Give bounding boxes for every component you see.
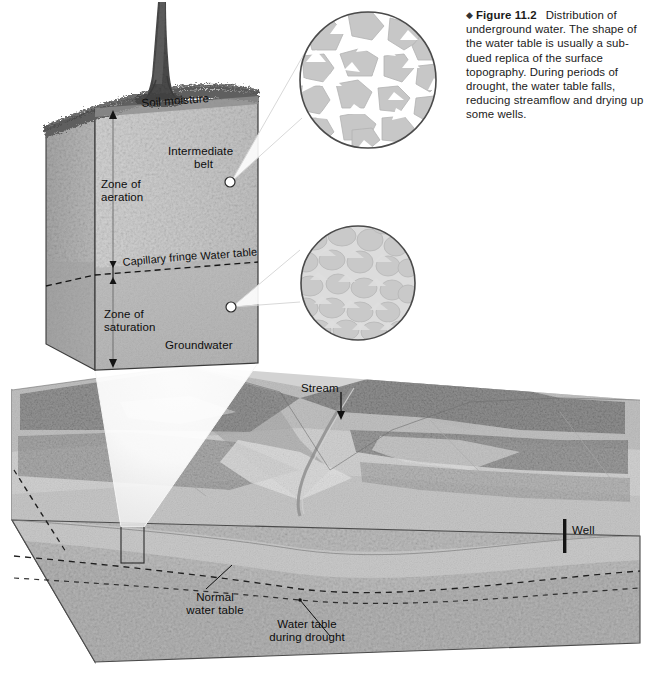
tree-trunk — [134, 2, 186, 107]
caption-bullet-icon: ◆ — [466, 10, 473, 20]
figure-caption-text: Distribution of underground water. The s… — [466, 9, 643, 120]
label-stream: Stream — [301, 382, 339, 395]
label-drought-water-table-line2: during drought — [248, 631, 366, 644]
aeration-sample-point — [225, 177, 235, 187]
well-shaft — [563, 519, 566, 553]
figure-caption: ◆Figure 11.2Distribution of underground … — [466, 8, 648, 122]
label-groundwater: Groundwater — [165, 339, 233, 352]
label-well: Well — [572, 524, 595, 537]
zone-of-aeration-magnifier — [298, 8, 444, 152]
label-zone-of-saturation-line2: saturation — [104, 321, 156, 334]
label-zone-of-aeration-line1: Zone of — [101, 178, 141, 191]
underground-water-block — [44, 2, 304, 370]
aeration-grains — [298, 8, 444, 152]
label-normal-water-table-line2: water table — [176, 604, 254, 617]
label-zone-of-aeration-line2: aeration — [101, 191, 143, 204]
label-drought-water-table-line1: Water table — [248, 618, 366, 631]
label-normal-water-table-line1: Normal — [176, 591, 254, 604]
saturation-sample-point — [226, 302, 236, 312]
saturation-grains — [294, 216, 418, 343]
figure-number: Figure 11.2 — [476, 9, 537, 21]
label-zone-of-saturation-line1: Zone of — [104, 308, 144, 321]
label-intermediate-belt-line2: belt — [194, 158, 213, 171]
drought-leader-dot — [298, 598, 302, 602]
figure-11-2: ◆Figure 11.2Distribution of underground … — [0, 0, 651, 673]
label-intermediate-belt-line1: Intermediate — [168, 145, 233, 158]
zone-of-saturation-magnifier — [294, 216, 418, 343]
